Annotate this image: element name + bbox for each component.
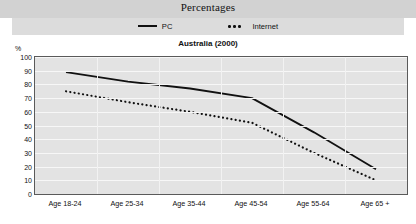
chart-legend: PC Internet xyxy=(12,18,404,35)
chart-title: Australia (2000) xyxy=(0,39,416,48)
gridline-vertical xyxy=(345,57,346,194)
y-axis-tick: 80 xyxy=(2,81,32,88)
x-axis-tick-labels: Age 18-24Age 25-34Age 35-44Age 45-54Age … xyxy=(34,199,408,213)
x-axis-tick: Age 65 + xyxy=(361,199,390,208)
legend-solid-line-icon xyxy=(138,22,157,31)
legend-item-pc: PC xyxy=(138,22,173,31)
y-axis-tick: 70 xyxy=(2,95,32,102)
legend-dotted-line-icon xyxy=(228,22,247,31)
y-axis-tick: 60 xyxy=(2,108,32,115)
x-axis-tick: Age 35-44 xyxy=(172,199,205,208)
y-axis-tick-labels: 0102030405060708090100 xyxy=(0,56,32,195)
plot-area xyxy=(34,56,408,195)
y-axis-unit-label: % xyxy=(15,45,21,52)
gridline-vertical xyxy=(97,57,98,194)
legend-label-pc: PC xyxy=(162,22,173,31)
y-axis-tick: 30 xyxy=(2,149,32,156)
gridline-vertical xyxy=(283,57,284,194)
y-axis-tick: 50 xyxy=(2,122,32,129)
x-axis-tick: Age 55-64 xyxy=(296,199,329,208)
y-axis-tick: 0 xyxy=(2,191,32,198)
y-axis-tick: 100 xyxy=(2,54,32,61)
legend-label-internet: Internet xyxy=(252,22,278,31)
legend-item-internet: Internet xyxy=(228,22,278,31)
y-axis-tick: 40 xyxy=(2,136,32,143)
banner-title: Percentages xyxy=(0,1,416,13)
y-axis-tick: 10 xyxy=(2,177,32,184)
x-axis-tick: Age 18-24 xyxy=(48,199,81,208)
chart-page: Percentages PC Internet Australia (2000)… xyxy=(0,0,416,224)
gridline-vertical xyxy=(221,57,222,194)
y-axis-tick: 90 xyxy=(2,67,32,74)
y-axis-tick: 20 xyxy=(2,163,32,170)
x-axis-tick: Age 25-34 xyxy=(110,199,143,208)
gridline-vertical xyxy=(159,57,160,194)
x-axis-tick: Age 45-54 xyxy=(234,199,267,208)
